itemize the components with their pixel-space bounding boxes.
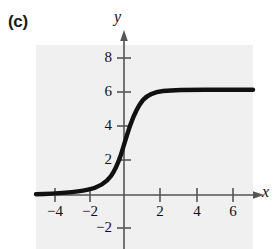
y-tick-label: 4: [98, 117, 112, 134]
y-tick-label: 6: [98, 83, 112, 100]
x-tick-label: 2: [151, 203, 169, 220]
x-tick-label: 6: [224, 203, 242, 220]
y-axis-arrowhead: [120, 30, 128, 41]
y-tick-label: 2: [98, 151, 112, 168]
y-tick-label: −2: [90, 219, 112, 236]
x-tick-label: 4: [188, 203, 206, 220]
x-tick-label: −2: [78, 203, 102, 220]
x-tick-label: −4: [43, 203, 67, 220]
y-tick-label: 8: [98, 49, 112, 66]
panel-label: (c): [8, 12, 28, 32]
plot-background: [36, 45, 253, 249]
x-axis-label: x: [262, 183, 269, 201]
y-axis-label: y: [114, 8, 121, 26]
